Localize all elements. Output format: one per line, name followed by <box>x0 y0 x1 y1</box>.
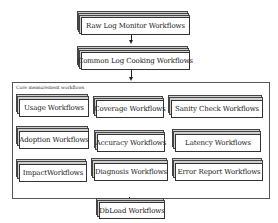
node-accuracy: Accuracy Workflows <box>94 130 166 152</box>
group-label: Core measurement workflows <box>16 85 84 90</box>
node-label: Common Log Cooking Workflows <box>81 52 190 70</box>
node-label: DbLoad Workflows <box>99 202 165 219</box>
node-label: Raw Log Monitor Workflows <box>81 17 190 35</box>
node-label: Adoption Workflows <box>19 131 89 149</box>
node-latency: Latency Workflows <box>172 129 262 152</box>
node-label: Coverage Workflows <box>96 100 164 118</box>
node-dbload: DbLoad Workflows <box>96 198 166 220</box>
node-usage: Usage Workflows <box>16 94 90 117</box>
node-common-log-cooking: Common Log Cooking Workflows <box>77 46 192 70</box>
node-error-report: Error Report Workflows <box>172 158 264 181</box>
node-label: Sanity Check Workflows <box>171 100 263 118</box>
arrow-head-icon <box>129 40 133 44</box>
node-coverage: Coverage Workflows <box>93 96 165 118</box>
node-label: Usage Workflows <box>19 99 89 117</box>
node-label: ImpactWorkflows <box>19 164 87 182</box>
node-adoption: Adoption Workflows <box>16 126 90 149</box>
node-raw-log-monitor: Raw Log Monitor Workflows <box>77 11 192 35</box>
node-diagnosis: Diagnosis Workflows <box>91 158 169 181</box>
node-label: Error Report Workflows <box>175 163 263 181</box>
node-label: Accuracy Workflows <box>97 134 165 152</box>
node-label: Latency Workflows <box>175 134 261 152</box>
node-label: Diagnosis Workflows <box>94 163 168 181</box>
node-impact: ImpactWorkflows <box>16 159 88 182</box>
arrow-head-icon <box>129 77 133 81</box>
node-sanity-check: Sanity Check Workflows <box>168 95 264 118</box>
